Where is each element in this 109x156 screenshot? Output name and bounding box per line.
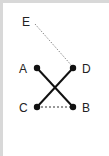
node-b-dot [70,104,76,110]
node-b-label: B [82,101,90,115]
node-a-dot [34,65,40,71]
node-c-dot [34,104,40,110]
diagram-canvas: E A D C B [0,0,109,156]
node-c-label: C [19,101,28,115]
edge-e-d [35,24,72,66]
node-e-label: E [22,15,30,29]
node-d-label: D [82,62,91,76]
node-d-dot [70,65,76,71]
node-a-label: A [19,62,27,76]
